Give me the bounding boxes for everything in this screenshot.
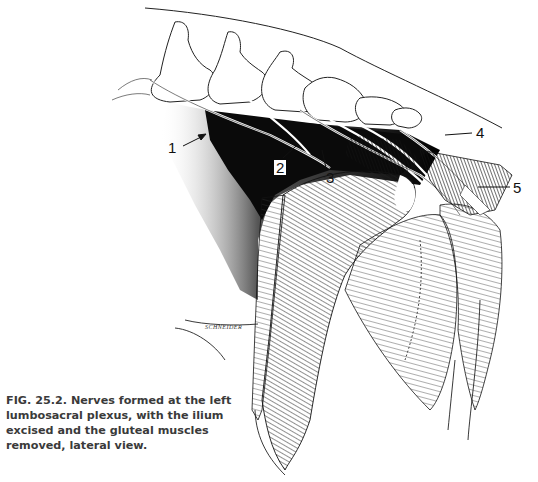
label-1: 1 — [168, 140, 176, 155]
anatomical-figure: 1 2 3 4 5 SCHNEIDER FIG. 25.2. Nerves fo… — [0, 0, 538, 482]
label-3: 3 — [326, 170, 334, 185]
label-4: 4 — [476, 125, 484, 140]
figure-caption: FIG. 25.2. Nerves formed at the left lum… — [6, 393, 246, 453]
artist-signature: SCHNEIDER — [205, 324, 242, 330]
label-5: 5 — [513, 180, 521, 195]
caption-line-4: removed, lateral view. — [6, 438, 246, 453]
label-2: 2 — [274, 160, 286, 175]
caption-line-1: FIG. 25.2. Nerves formed at the left — [6, 393, 246, 408]
caption-line-2: lumbosacral plexus, with the ilium — [6, 408, 246, 423]
caption-line-3: excised and the gluteal muscles — [6, 423, 246, 438]
